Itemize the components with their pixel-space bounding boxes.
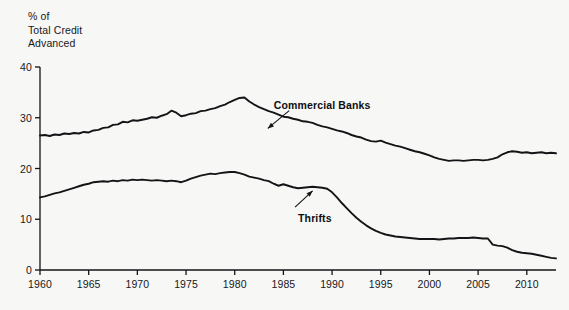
y-tick-label: 30 [8, 112, 32, 124]
y-tick-label: 10 [8, 213, 32, 225]
x-tick-label: 2000 [418, 278, 442, 290]
series-label: Thrifts [298, 212, 332, 224]
chart-axes [40, 67, 556, 270]
x-tick-label: 1990 [320, 278, 344, 290]
x-tick-label: 2005 [466, 278, 490, 290]
x-tick-label: 1960 [28, 278, 52, 290]
chart-plot-area [0, 0, 569, 310]
y-tick-label: 40 [8, 61, 32, 73]
y-tick-label: 0 [8, 264, 32, 276]
series-label: Commercial Banks [274, 99, 371, 111]
y-tick-label: 20 [8, 163, 32, 175]
x-tick-label: 1995 [369, 278, 393, 290]
x-tick-label: 1970 [125, 278, 149, 290]
chart-container: % of Total Credit Advanced 010203040 196… [0, 0, 569, 310]
x-tick-label: 1980 [223, 278, 247, 290]
annotation-arrow [295, 191, 313, 207]
x-tick-label: 2010 [515, 278, 539, 290]
x-tick-label: 1965 [77, 278, 101, 290]
x-tick-label: 1975 [174, 278, 198, 290]
x-tick-label: 1985 [272, 278, 296, 290]
annotation-arrow [268, 111, 289, 129]
